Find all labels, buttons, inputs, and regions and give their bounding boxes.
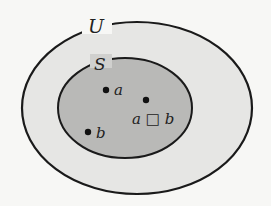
point-a: [103, 87, 109, 93]
point-b: [85, 129, 91, 135]
label-point-b: b: [96, 124, 106, 142]
label-point-a: a: [114, 81, 123, 99]
subset-S: [58, 58, 192, 158]
venn-diagram: U S a a □ b b: [0, 0, 271, 206]
point-a-op-b: [143, 97, 149, 103]
label-point-a-op-b: a □ b: [132, 110, 174, 128]
label-S: S: [94, 54, 106, 74]
label-U: U: [88, 15, 105, 37]
